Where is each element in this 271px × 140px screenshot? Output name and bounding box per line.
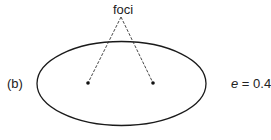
- focus-point-right: [151, 81, 155, 85]
- eccentricity-equals: =: [238, 76, 253, 91]
- eccentricity-label: e = 0.4: [231, 77, 271, 90]
- eccentricity-value: 0.4: [253, 76, 271, 91]
- panel-label: (b): [7, 77, 23, 90]
- ellipse-diagram: foci (b) e = 0.4: [0, 0, 271, 140]
- leader-line-left: [88, 17, 121, 83]
- ellipse-outline: [37, 42, 206, 126]
- foci-label: foci: [113, 3, 133, 16]
- focus-point-left: [86, 81, 90, 85]
- diagram-canvas: [0, 0, 271, 140]
- leader-line-right: [121, 17, 153, 83]
